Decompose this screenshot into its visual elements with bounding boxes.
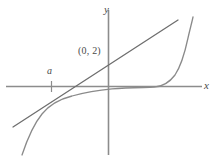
x-axis-label: x (204, 80, 209, 91)
point-label-y-intercept: (0, 2) (78, 46, 101, 56)
tick-label-a: a (47, 66, 52, 76)
tangent-line (13, 20, 178, 127)
y-axis-label: y (104, 4, 109, 15)
figure-container: y x a (0, 2) (0, 0, 216, 162)
graph-canvas (0, 0, 216, 162)
